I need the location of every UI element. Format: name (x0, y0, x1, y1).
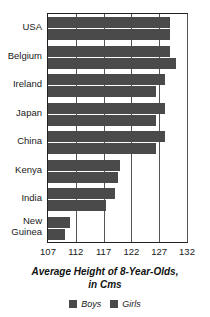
bar-group (48, 131, 187, 157)
bar-girls (48, 172, 118, 183)
axis-title-line-2: in Cms (88, 279, 121, 290)
legend-item-boys: Boys (69, 299, 101, 309)
category-label-text: Ireland (13, 78, 42, 89)
bar-group (48, 103, 187, 129)
category-label-china: China (0, 136, 42, 147)
category-label-usa: USA (0, 22, 42, 33)
x-tick-label-107: 107 (40, 246, 56, 257)
category-label-text: Japan (16, 107, 42, 118)
x-tick-label-127: 127 (151, 246, 167, 257)
bar-girls (48, 229, 65, 240)
legend-item-girls: Girls (110, 299, 141, 309)
bars-layer (48, 14, 187, 242)
bar-group (48, 74, 187, 100)
x-tick-label-117: 117 (96, 246, 111, 257)
bar-girls (48, 200, 106, 211)
category-label-text: China (17, 135, 42, 146)
bar-group (48, 217, 187, 243)
chart-legend: Boys Girls (0, 299, 210, 309)
category-axis-labels: USA Belgium Ireland Japan China Kenya In… (0, 13, 45, 243)
bar-boys (48, 217, 70, 228)
bar-boys (48, 131, 165, 142)
gridline-132 (187, 14, 188, 242)
category-label-text: New (23, 215, 42, 226)
legend-label-boys: Boys (81, 299, 101, 309)
height-comparison-bar-chart: USA Belgium Ireland Japan China Kenya In… (0, 0, 210, 317)
category-label-text-2: Guinea (11, 226, 42, 237)
bar-girls (48, 86, 156, 97)
bar-girls (48, 143, 156, 154)
legend-swatch-icon-girls (110, 300, 118, 308)
category-label-ireland: Ireland (0, 79, 42, 90)
plot-area (47, 13, 188, 243)
x-tick-label-112: 112 (68, 246, 83, 257)
category-label-text: India (21, 192, 42, 203)
x-tick-label-132: 132 (179, 246, 195, 257)
category-label-kenya: Kenya (0, 165, 42, 176)
bar-group (48, 188, 187, 214)
category-label-india: India (0, 193, 42, 204)
category-label-text: USA (22, 21, 42, 32)
category-label-belgium: Belgium (0, 51, 42, 62)
bar-girls (48, 115, 156, 126)
bar-boys (48, 17, 170, 28)
category-label-text: Belgium (8, 50, 42, 61)
bar-group (48, 17, 187, 43)
chart-axis-title: Average Height of 8-Year-Olds, in Cms (0, 266, 210, 291)
category-label-new-guinea: NewGuinea (0, 216, 42, 237)
legend-swatch-icon-boys (69, 300, 77, 308)
bar-boys (48, 74, 165, 85)
bar-group (48, 160, 187, 186)
bar-girls (48, 58, 176, 69)
category-label-text: Kenya (15, 164, 42, 175)
x-axis-tick-labels: 107112117122127132 (0, 246, 210, 260)
legend-label-girls: Girls (122, 299, 141, 309)
bar-boys (48, 160, 120, 171)
bar-boys (48, 188, 115, 199)
axis-title-line-1: Average Height of 8-Year-Olds, (32, 266, 179, 277)
bar-boys (48, 46, 170, 57)
category-label-japan: Japan (0, 108, 42, 119)
bar-boys (48, 103, 165, 114)
bar-group (48, 46, 187, 72)
bar-girls (48, 29, 170, 40)
x-tick-label-122: 122 (123, 246, 139, 257)
